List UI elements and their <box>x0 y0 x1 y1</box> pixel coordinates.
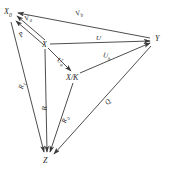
node-label-Y: Y <box>155 35 159 43</box>
node-label-X: X <box>42 41 47 49</box>
edge-text-R: R <box>41 106 49 110</box>
node-label-XK: X/K <box>66 74 78 82</box>
diagram-canvas: X0 X X/K Y Z Va Vb P U Ua Ub R1 R Ra Q <box>0 0 173 176</box>
edge-R1 <box>11 22 44 152</box>
node-text-X: X <box>42 40 47 49</box>
edge-text-U: U <box>96 34 101 42</box>
edge-Q <box>54 46 151 154</box>
node-text-XK: X/K <box>66 73 78 82</box>
edge-label-U: U <box>96 35 101 42</box>
edge-sub-R1: 1 <box>22 82 27 86</box>
node-text-Z: Z <box>43 156 47 165</box>
node-label-X0: X0 <box>4 8 12 18</box>
edge-label-R: R <box>42 106 49 110</box>
node-text-Y: Y <box>155 34 159 43</box>
edge-sub-Ub: b <box>107 56 110 61</box>
node-label-Z: Z <box>43 157 47 165</box>
edge-R <box>45 49 47 152</box>
node-sub-X0: 0 <box>9 12 12 18</box>
edge-label-Ub: Ub <box>102 52 111 62</box>
edge-Ub <box>80 43 150 73</box>
